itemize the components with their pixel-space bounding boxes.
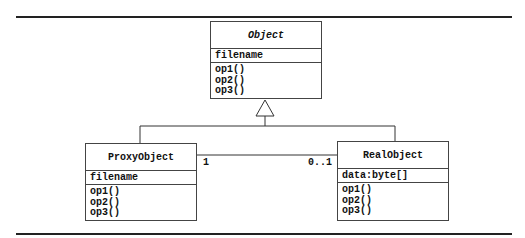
generalization-arrow-icon [256,100,274,116]
class-realobject: RealObject data:byte[] op1() op2() op3() [337,141,449,221]
operations-compartment: op1() op2() op3() [338,183,448,219]
multiplicity-proxy-end: 1 [203,157,209,168]
attributes-compartment: filename [86,171,196,185]
operation: op3() [90,208,192,219]
class-name: RealObject [338,142,448,169]
operation: op1() [90,187,192,198]
operations-compartment: op1() op2() op3() [86,185,196,221]
class-proxyobject: ProxyObject filename op1() op2() op3() [85,143,197,221]
attribute: data:byte[] [342,170,444,181]
operation: op1() [342,185,444,196]
attributes-compartment: data:byte[] [338,169,448,183]
attribute: filename [90,172,192,183]
multiplicity-real-end: 0..1 [308,157,332,168]
operation: op3() [342,206,444,217]
class-name: ProxyObject [86,144,196,171]
